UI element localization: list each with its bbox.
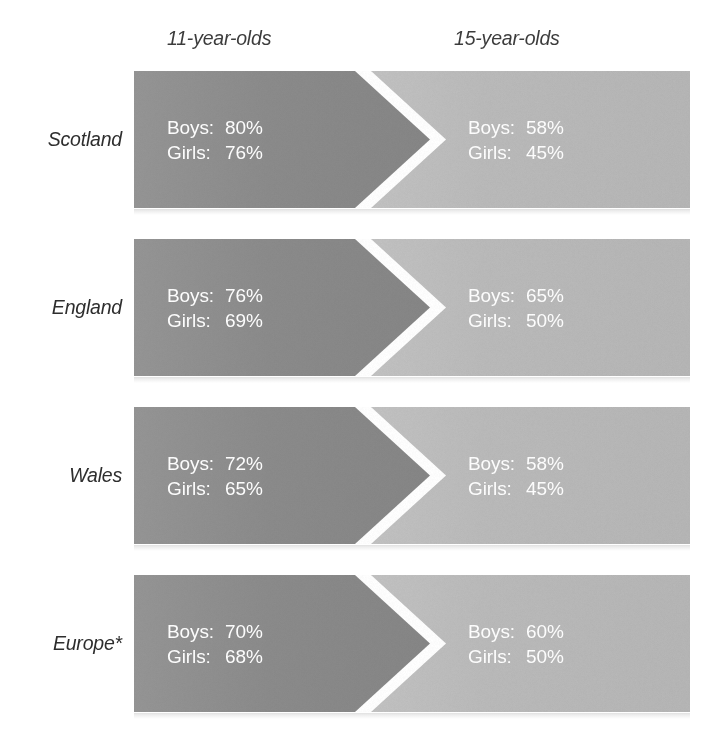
- chart-row-wales: Wales: [0, 407, 710, 544]
- chevron-band-graphic: [134, 239, 690, 376]
- chart-row-europe: Europe*: [0, 575, 710, 712]
- row-label: England: [0, 239, 122, 376]
- chevron-band: Boys: 72% Girls: 65% Boys: 58% Girls:: [134, 407, 690, 544]
- row-label: Europe*: [0, 575, 122, 712]
- chart-rows: Scotland: [0, 0, 710, 746]
- chart-figure: 11-year-olds 15-year-olds Scotland: [0, 0, 710, 746]
- row-label: Scotland: [0, 71, 122, 208]
- row-separator: [134, 713, 690, 719]
- chevron-band-graphic: [134, 71, 690, 208]
- row-separator: [134, 377, 690, 383]
- row-separator: [134, 209, 690, 215]
- chevron-band: Boys: 76% Girls: 69% Boys: 65% Girls:: [134, 239, 690, 376]
- chevron-band: Boys: 70% Girls: 68% Boys: 60% Girls:: [134, 575, 690, 712]
- chevron-band-graphic: [134, 575, 690, 712]
- chevron-band-graphic: [134, 407, 690, 544]
- chevron-band: Boys: 80% Girls: 76% Boys: 58% Girls:: [134, 71, 690, 208]
- chart-row-england: England: [0, 239, 710, 376]
- chart-row-scotland: Scotland: [0, 71, 710, 208]
- row-separator: [134, 545, 690, 551]
- row-label: Wales: [0, 407, 122, 544]
